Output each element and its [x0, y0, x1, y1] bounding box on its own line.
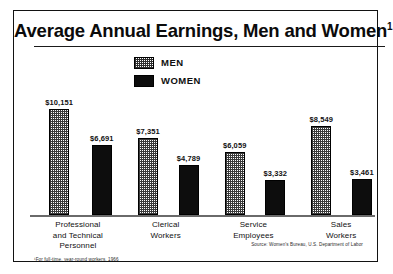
chart-title-text: Average Annual Earnings, Men and Women [14, 20, 387, 41]
bar-group-clerical: $7,351 $4,789 [136, 97, 200, 215]
title-footnote-marker: 1 [387, 21, 393, 32]
bar-value-men-2: $6,059 [223, 141, 247, 150]
bar-column-women-1: $4,789 [177, 97, 201, 215]
bar-groups: $10,151 $6,691 $7,351 $4,789 [34, 97, 385, 215]
bar-group-service: $6,059 $3,332 [223, 97, 287, 215]
legend-swatch-men-icon [134, 57, 154, 69]
chart-figure: Average Annual Earnings, Men and Women1 … [0, 0, 393, 274]
bar-women-3 [352, 179, 372, 215]
plot-area: $10,151 $6,691 $7,351 $4,789 [34, 97, 385, 215]
bar-value-women-1: $4,789 [177, 154, 201, 163]
bar-column-men-2: $6,059 [223, 97, 247, 215]
legend-item-women: WOMEN [134, 73, 201, 88]
bar-column-women-2: $3,332 [263, 97, 287, 215]
title-divider [34, 46, 385, 47]
bar-value-women-2: $3,332 [263, 169, 287, 178]
bar-column-men-3: $8,549 [310, 97, 334, 215]
bar-column-women-3: $3,461 [350, 97, 374, 215]
bar-column-men-1: $7,351 [136, 97, 160, 215]
legend-label-men: MEN [161, 57, 184, 68]
bar-group-sales: $8,549 $3,461 [310, 97, 374, 215]
bar-column-men-0: $10,151 [45, 97, 73, 215]
chart-footnote: ¹For full-time, year-round workers, 1966 [34, 257, 119, 262]
bar-value-men-0: $10,151 [45, 98, 73, 107]
bar-group-professional: $10,151 $6,691 [45, 97, 113, 215]
x-axis-baseline [30, 215, 375, 217]
chart-source: Source: Women's Bureau, U.S. Department … [251, 242, 363, 247]
chart-title-container: Average Annual Earnings, Men and Women1 [14, 20, 377, 42]
page-title: Average Annual Earnings, Men and Women1 [14, 20, 393, 42]
legend-item-men: MEN [134, 55, 201, 70]
bar-value-men-3: $8,549 [310, 115, 334, 124]
category-label-0: Professionaland TechnicalPersonnel [37, 220, 119, 252]
bar-women-0 [92, 145, 112, 215]
bar-women-2 [265, 180, 285, 215]
bar-column-women-0: $6,691 [90, 97, 114, 215]
category-label-1: ClericalWorkers [125, 220, 207, 252]
bar-value-men-1: $7,351 [136, 127, 160, 136]
legend-label-women: WOMEN [161, 75, 201, 86]
chart-panel: Average Annual Earnings, Men and Women1 … [13, 10, 378, 262]
bar-men-2 [225, 152, 245, 215]
legend-swatch-women-icon [134, 75, 154, 87]
bar-men-0 [49, 109, 69, 215]
chart-legend: MEN WOMEN [134, 55, 201, 91]
bar-men-3 [311, 126, 331, 215]
bar-value-women-3: $3,461 [350, 168, 374, 177]
bar-value-women-0: $6,691 [90, 134, 114, 143]
bar-women-1 [179, 165, 199, 215]
bar-men-1 [138, 138, 158, 215]
